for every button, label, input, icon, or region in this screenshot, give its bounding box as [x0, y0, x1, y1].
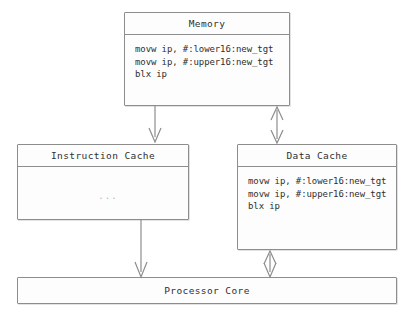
arrow-instruction-cache-to-processor-core	[135, 220, 147, 277]
node-data-cache[interactable]: Data Cache movw ip, #:lower16:new_tgt mo…	[237, 144, 397, 250]
node-instruction-cache-body: ...	[18, 167, 188, 207]
node-instruction-cache[interactable]: Instruction Cache ...	[17, 144, 189, 220]
arrow-data-cache-to-processor-core	[264, 251, 276, 277]
node-data-cache-title: Data Cache	[238, 145, 396, 167]
arrow-memory-to-data-cache	[271, 107, 283, 143]
node-processor-core-title: Processor Core	[18, 278, 396, 303]
code-line: movw ip, #:lower16:new_tgt	[248, 175, 396, 188]
code-line: movw ip, #:upper16:new_tgt	[248, 188, 396, 201]
node-memory[interactable]: Memory movw ip, #:lower16:new_tgt movw i…	[124, 12, 290, 106]
code-line: movw ip, #:upper16:new_tgt	[135, 56, 289, 69]
node-data-cache-body: movw ip, #:lower16:new_tgt movw ip, #:up…	[238, 167, 396, 219]
code-line: blx ip	[248, 200, 396, 213]
node-memory-title: Memory	[125, 13, 289, 35]
diagram-canvas: Memory movw ip, #:lower16:new_tgt movw i…	[0, 0, 411, 314]
node-processor-core[interactable]: Processor Core	[17, 277, 397, 304]
node-instruction-cache-title: Instruction Cache	[18, 145, 188, 167]
arrow-memory-to-instruction-cache	[149, 106, 161, 142]
node-memory-body: movw ip, #:lower16:new_tgt movw ip, #:up…	[125, 35, 289, 87]
ellipsis-placeholder: ...	[28, 175, 188, 201]
code-line: blx ip	[135, 68, 289, 81]
code-line: movw ip, #:lower16:new_tgt	[135, 43, 289, 56]
